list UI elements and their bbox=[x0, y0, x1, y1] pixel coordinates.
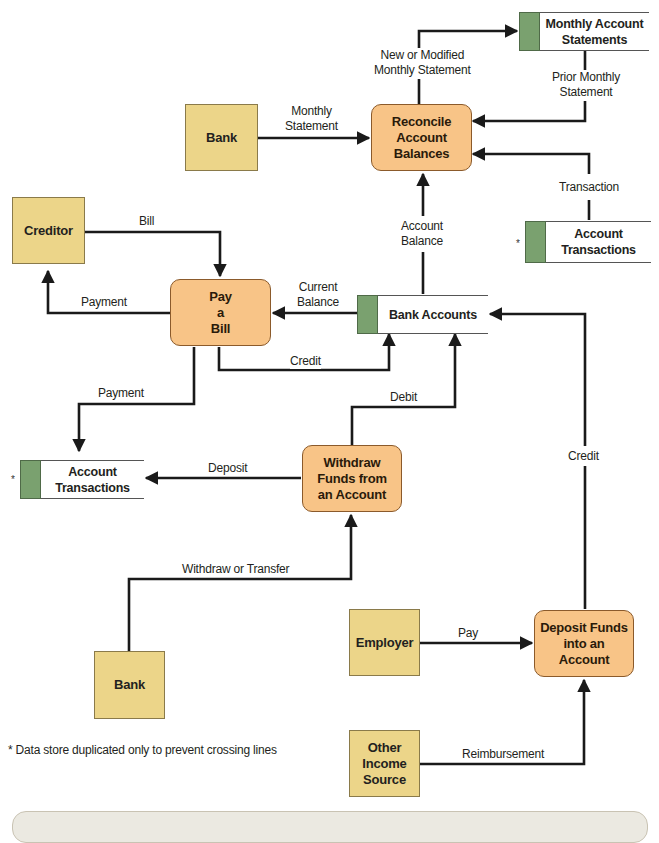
flow-label-credit-pay-bill: Credit bbox=[290, 354, 321, 369]
flow-label-payment-transactions: Payment bbox=[98, 386, 144, 401]
external-entity-bank-top: Bank bbox=[185, 104, 258, 171]
process-reconcile-account-balances: Reconcile Account Balances bbox=[371, 104, 472, 171]
process-label: Withdraw Funds from an Account bbox=[317, 455, 387, 503]
duplicate-marker: * bbox=[516, 238, 520, 249]
data-store-tab bbox=[20, 460, 41, 499]
flow-label-credit-deposit: Credit bbox=[568, 449, 599, 464]
footnote: * Data store duplicated only to prevent … bbox=[8, 743, 277, 757]
external-entity-bank-bottom: Bank bbox=[94, 651, 165, 719]
external-entity-creditor: Creditor bbox=[12, 197, 85, 264]
data-store-label: Monthly Account Statements bbox=[540, 13, 649, 50]
flow-label-pay: Pay bbox=[458, 626, 478, 641]
data-store-tab bbox=[519, 12, 540, 51]
data-store-label: Account Transactions bbox=[546, 222, 651, 262]
process-label: Reconcile Account Balances bbox=[392, 114, 452, 162]
data-store-account-transactions-left: Account Transactions bbox=[20, 460, 144, 499]
process-label: Pay a Bill bbox=[209, 289, 232, 337]
process-withdraw-funds: Withdraw Funds from an Account bbox=[302, 445, 402, 512]
data-store-monthly-account-statements: Monthly Account Statements bbox=[519, 12, 649, 51]
process-label: Deposit Funds into an Account bbox=[540, 620, 628, 668]
entity-label: Employer bbox=[356, 635, 414, 651]
process-deposit-funds: Deposit Funds into an Account bbox=[534, 610, 634, 677]
flow-label-withdraw-or-transfer: Withdraw or Transfer bbox=[182, 562, 289, 577]
external-entity-other-income-source: Other Income Source bbox=[349, 730, 420, 797]
data-store-bank-accounts: Bank Accounts bbox=[357, 295, 488, 334]
flow-label-transaction: Transaction bbox=[559, 180, 619, 195]
flow-label-monthly-statement: Monthly Statement bbox=[285, 104, 338, 134]
entity-label: Bank bbox=[114, 677, 145, 693]
entity-label: Other Income Source bbox=[362, 740, 406, 788]
caption-panel bbox=[12, 811, 648, 843]
data-store-account-transactions-right: Account Transactions bbox=[525, 221, 651, 263]
flow-label-reimbursement: Reimbursement bbox=[462, 747, 544, 762]
data-store-tab bbox=[525, 221, 546, 263]
flow-label-prior-monthly-statement: Prior Monthly Statement bbox=[552, 70, 620, 100]
flow-label-debit: Debit bbox=[390, 390, 417, 405]
data-store-label: Bank Accounts bbox=[378, 296, 488, 333]
flow-label-new-or-modified-statement: New or Modified Monthly Statement bbox=[374, 48, 471, 78]
flow-label-bill: Bill bbox=[139, 214, 154, 229]
duplicate-marker: * bbox=[11, 474, 15, 485]
flow-label-deposit: Deposit bbox=[208, 461, 247, 476]
flow-label-account-balance: Account Balance bbox=[401, 219, 443, 249]
process-pay-a-bill: Pay a Bill bbox=[170, 279, 271, 346]
data-store-tab bbox=[357, 295, 378, 334]
data-store-label: Account Transactions bbox=[41, 461, 144, 498]
flow-label-current-balance: Current Balance bbox=[297, 280, 339, 310]
external-entity-employer: Employer bbox=[349, 609, 420, 676]
flow-label-payment-creditor: Payment bbox=[81, 295, 127, 310]
entity-label: Bank bbox=[206, 130, 237, 146]
entity-label: Creditor bbox=[24, 223, 73, 239]
